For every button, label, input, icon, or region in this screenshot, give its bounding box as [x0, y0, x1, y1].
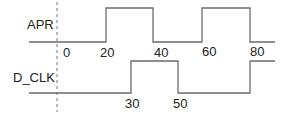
dclk-waveform: [29, 61, 275, 93]
apr-signal-label: APR: [27, 18, 54, 31]
time-label-60: 60: [202, 45, 216, 58]
time-label-0: 0: [63, 46, 70, 59]
dclk-signal-label: D_CLK: [13, 71, 55, 84]
apr-waveform: [29, 8, 275, 42]
time-label-30: 30: [125, 97, 139, 110]
time-label-80: 80: [250, 45, 264, 58]
time-label-40: 40: [154, 46, 168, 59]
time-label-20: 20: [100, 46, 114, 59]
time-label-50: 50: [173, 97, 187, 110]
